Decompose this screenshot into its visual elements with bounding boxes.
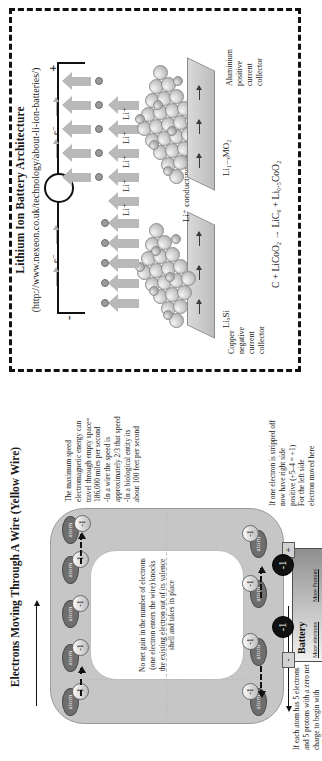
anode-lattice xyxy=(129,218,189,330)
electron-motion-arrow-top-right xyxy=(80,534,82,564)
zero-net-charge-note: If each atom has 5 electrons and 5 proto… xyxy=(292,634,322,750)
battery-more-protons-label: More Protons xyxy=(312,569,318,602)
cell-reaction-equation: C + LiCoO₂ → LiC₆ + Li₀.₅CoO₂ xyxy=(271,161,281,288)
copper-collector-line-4: collector xyxy=(257,326,267,354)
collector-electron-arrow-2 xyxy=(199,266,200,280)
ion-label-4: Li⁺ xyxy=(121,131,131,144)
electron-flow-arrow-2 xyxy=(56,226,57,244)
electron-flow-arrow-1 xyxy=(56,268,57,286)
aluminium-collector-line-2: positive xyxy=(235,49,245,86)
cathode-material-label: Li₁₋ₓMO₂ xyxy=(221,140,231,176)
electron-motion-arrow-bottom-left xyxy=(260,666,262,696)
negative-terminal-sign: - xyxy=(61,316,77,320)
current-direction-arrow-top xyxy=(36,602,37,706)
ion-label-5: Li⁺ xyxy=(121,107,131,120)
electron-bottom-1: -1 xyxy=(242,683,259,700)
electron-flow-arrow-4 xyxy=(56,98,57,116)
no-net-gain-note: No net gain in the number of electrons (… xyxy=(138,556,177,674)
wire-center-guide-vertical xyxy=(90,679,244,680)
lithium-ion-battery-panel: Lithium Ion Battery Architecture (http:/… xyxy=(9,8,301,372)
free-electron-right: -1 xyxy=(272,554,294,576)
cathode-collector-electron-arrow-1 xyxy=(199,154,200,168)
collector-electron-arrow-3 xyxy=(199,232,200,246)
electron-motion-arrow-bottom-right xyxy=(260,568,262,598)
aluminium-collector-line-3: current xyxy=(245,49,255,86)
aluminium-collector-line-4: collector xyxy=(255,49,265,86)
electron-label-left: e⁻ xyxy=(50,254,60,263)
aluminium-positive-current-collector xyxy=(187,57,215,191)
electron-bottom-3: -1 xyxy=(242,575,259,592)
electron-top-3: -1 xyxy=(72,595,89,612)
cathode-material-text: Li₁₋ₓMO₂ xyxy=(221,140,231,176)
copper-collector-line-2: negative xyxy=(237,326,247,354)
speed-of-energy-note: The maximum speed electromagnetic energy… xyxy=(64,390,142,502)
electron-bottom-2: -1 xyxy=(242,633,259,650)
electron-label-right: e⁻ xyxy=(50,126,60,135)
copper-collector-line-1: Copper xyxy=(227,326,237,354)
electron-top-2: -1 xyxy=(72,639,89,656)
electron-motion-arrow-top-left xyxy=(80,668,82,696)
electron-flow-arrow-3 xyxy=(56,140,57,158)
electron-bottom-4: -1 xyxy=(242,525,259,542)
cathode-lattice xyxy=(133,66,189,186)
screenshot-root: Lithium Ion Battery Architecture (http:/… xyxy=(0,0,322,761)
positive-terminal-sign: + xyxy=(45,65,61,72)
battery-panel-title: Lithium Ion Battery Architecture xyxy=(14,8,26,372)
collector-electron-arrow-1 xyxy=(199,300,200,314)
ion-label-3: Li⁺ xyxy=(121,155,131,168)
ion-label-1: Li⁺ xyxy=(121,203,131,216)
cathode-collector-electron-arrow-2 xyxy=(199,120,200,134)
electrons-moving-through-wire-panel: Electrons Moving Through A Wire (Yellow … xyxy=(6,376,318,758)
stripped-electron-note: If one electron is stripped off now have… xyxy=(268,386,317,506)
battery-panel-source-url: (http://www.nexeon.co.uk/technology/abou… xyxy=(30,8,41,372)
free-electron-left: -1 xyxy=(272,616,294,638)
wire-panel-title: Electrons Moving Through A Wire (Yellow … xyxy=(9,376,21,758)
copper-collector-label: Copper negative current collector xyxy=(227,326,267,354)
aluminium-collector-label: Aluminium positive current collector xyxy=(225,49,265,86)
aluminium-collector-line-1: Aluminium xyxy=(225,49,235,86)
copper-collector-line-3: current xyxy=(247,326,257,354)
ion-label-2: Li⁺ xyxy=(121,179,131,192)
cathode-collector-electron-arrow-3 xyxy=(199,86,200,100)
electron-top-5: -1 xyxy=(74,515,91,532)
